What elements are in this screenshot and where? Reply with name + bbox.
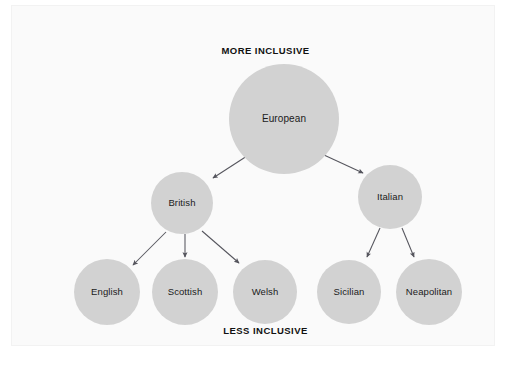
scale-label-more-inclusive: MORE INCLUSIVE (12, 45, 495, 56)
node-label-british: British (168, 198, 195, 208)
node-label-neapolitan: Neapolitan (406, 287, 452, 297)
node-italian[interactable]: Italian (358, 165, 422, 229)
edge-italian-neapolitan (402, 228, 414, 257)
edge-british-welsh (202, 231, 239, 263)
node-welsh[interactable]: Welsh (233, 260, 297, 324)
node-sicilian[interactable]: Sicilian (317, 260, 381, 324)
node-label-scottish: Scottish (168, 287, 203, 297)
edge-european-italian (324, 155, 363, 173)
edge-european-british (213, 156, 247, 178)
node-label-european: European (262, 114, 306, 124)
node-british[interactable]: British (151, 172, 213, 234)
node-label-english: English (91, 287, 123, 297)
node-european[interactable]: European (229, 64, 339, 174)
node-label-welsh: Welsh (252, 287, 279, 297)
node-scottish[interactable]: Scottish (152, 259, 218, 325)
figure-root: MORE INCLUSIVE LESS INCLUSIVE European B… (0, 0, 507, 376)
edge-italian-sicilian (367, 228, 380, 257)
node-english[interactable]: English (74, 259, 140, 325)
diagram-panel: MORE INCLUSIVE LESS INCLUSIVE European B… (11, 5, 495, 346)
node-neapolitan[interactable]: Neapolitan (396, 259, 462, 325)
scale-label-less-inclusive: LESS INCLUSIVE (12, 325, 495, 336)
edge-british-english (133, 232, 166, 265)
node-label-italian: Italian (377, 192, 403, 202)
node-label-sicilian: Sicilian (334, 287, 365, 297)
